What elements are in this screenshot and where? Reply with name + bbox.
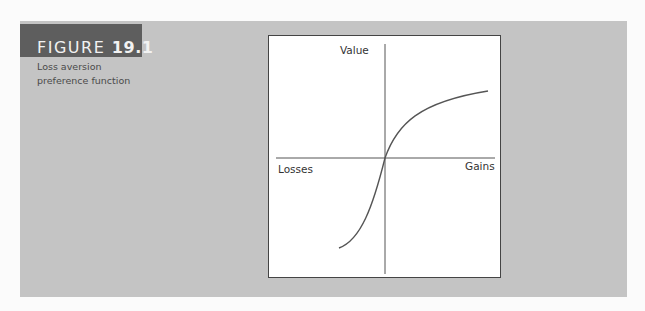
figure-label: FIGURE 19.1: [37, 38, 153, 57]
figure-label-prefix: FIGURE: [37, 38, 105, 57]
value-function-chart: [269, 36, 502, 279]
y-axis-label: Value: [340, 44, 369, 56]
gains-label: Gains: [465, 160, 495, 172]
plot-area: Value Losses Gains: [268, 35, 501, 278]
figure-number: 19.1: [112, 38, 153, 57]
figure-caption: Loss aversion preference function: [37, 60, 147, 88]
losses-label: Losses: [278, 163, 313, 175]
